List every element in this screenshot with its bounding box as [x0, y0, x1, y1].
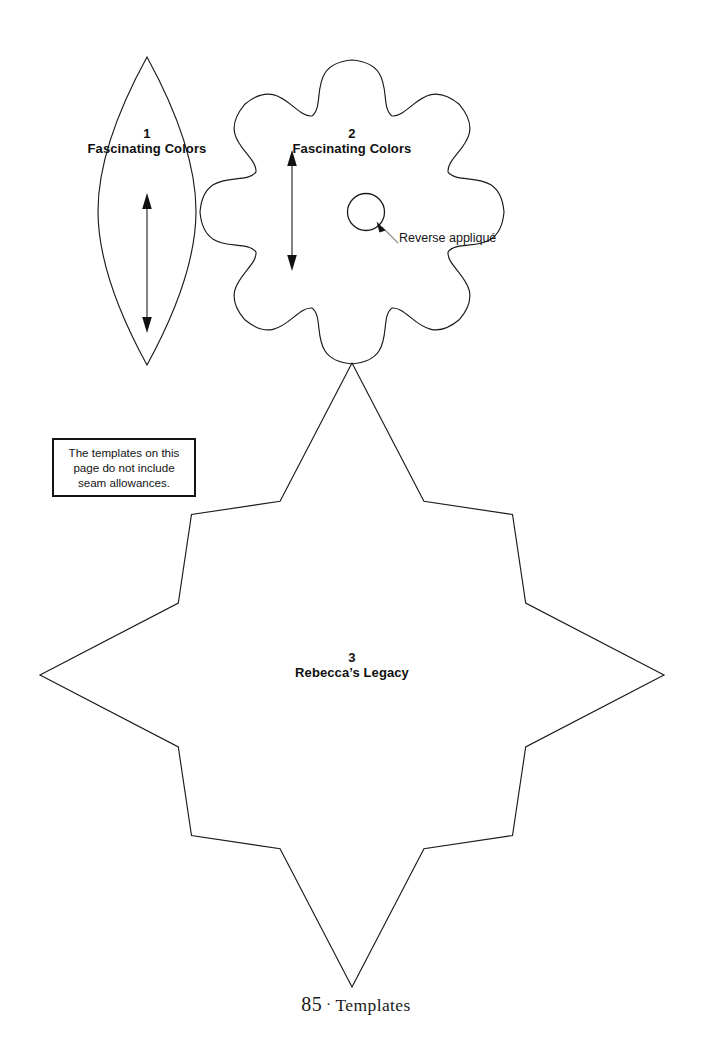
reverse-applique-callout-text: Reverse appliqué: [399, 230, 519, 246]
template-page: 1 Fascinating Colors 2 Fascinating Color…: [0, 0, 712, 1043]
template-3-name: Rebecca’s Legacy: [267, 665, 437, 680]
template-1-label: 1 Fascinating Colors: [62, 126, 232, 157]
footer-separator: ·: [322, 996, 335, 1012]
template-2-label: 2 Fascinating Colors: [267, 126, 437, 157]
template-2-number: 2: [267, 126, 437, 141]
seam-allowance-note-text: The templates on this page do not includ…: [54, 445, 194, 491]
seam-allowance-note-box: The templates on this page do not includ…: [52, 438, 196, 497]
template-3-number: 3: [267, 650, 437, 665]
template-2-name: Fascinating Colors: [267, 141, 437, 156]
template-1-number: 1: [62, 126, 232, 141]
template-1-name: Fascinating Colors: [62, 141, 232, 156]
page-number: 85: [301, 993, 322, 1015]
template-3-label: 3 Rebecca’s Legacy: [267, 650, 437, 681]
page-footer: 85·Templates: [0, 993, 712, 1016]
footer-section-name: Templates: [335, 995, 410, 1015]
